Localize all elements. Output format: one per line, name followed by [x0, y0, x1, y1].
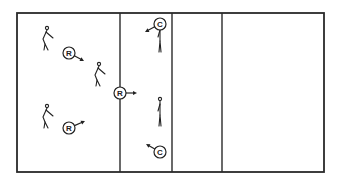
player-marker-label: C — [157, 20, 163, 29]
direction-arrow-icon — [126, 91, 137, 95]
bent-person-icon — [43, 104, 53, 128]
coach-player: C — [145, 18, 166, 52]
bent-person-icon — [43, 26, 53, 50]
direction-arrow-icon — [74, 121, 85, 126]
direction-arrow-icon — [146, 144, 155, 149]
receiver-player: R — [43, 26, 84, 61]
direction-arrow-icon — [145, 27, 155, 32]
players-layer: RRRCC — [43, 18, 166, 158]
court-diagram: RRRCC — [0, 0, 341, 180]
coach-player: C — [146, 97, 166, 158]
player-marker-label: R — [66, 49, 72, 58]
player-marker-label: R — [66, 124, 72, 133]
direction-arrow-icon — [74, 56, 84, 61]
receiver-player: R — [95, 62, 137, 99]
player-marker-label: C — [157, 148, 163, 157]
player-marker-label: R — [117, 89, 123, 98]
court-outline — [17, 13, 324, 172]
bent-person-icon — [95, 62, 105, 86]
standing-person-icon — [158, 97, 162, 126]
receiver-player: R — [43, 104, 85, 134]
